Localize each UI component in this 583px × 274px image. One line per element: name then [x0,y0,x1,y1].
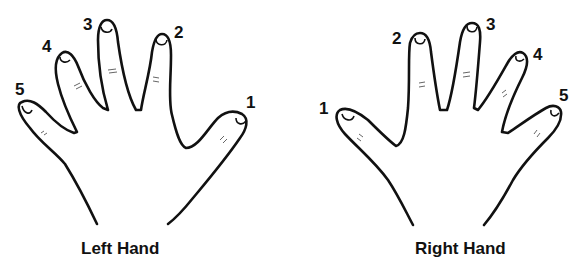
left-index-label: 2 [174,24,183,41]
right-hand-outline [337,23,562,225]
right-thumb-label: 1 [319,100,328,117]
right-index-label: 2 [392,30,401,47]
left-thumb-label: 1 [246,94,255,111]
left-ring-label: 4 [42,38,51,55]
right-ring-label: 4 [533,46,542,63]
left-middle-label: 3 [83,16,92,33]
right-pinky-label: 5 [559,87,568,104]
right-hand-caption: Right Hand [415,240,506,257]
left-hand-outline [19,20,247,224]
right-middle-label: 3 [486,16,495,33]
hands-illustration [0,0,583,274]
left-hand-caption: Left Hand [81,240,159,257]
left-pinky-label: 5 [15,81,24,98]
